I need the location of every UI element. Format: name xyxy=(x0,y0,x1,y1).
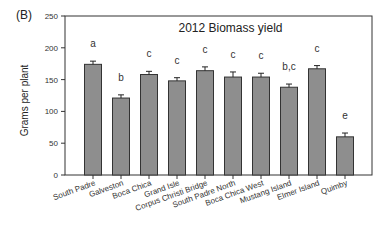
bar xyxy=(337,137,354,175)
bar xyxy=(197,71,214,175)
bar xyxy=(281,87,298,175)
y-tick-label: 150 xyxy=(45,76,59,85)
significance-letter: a xyxy=(90,38,96,49)
significance-letter: c xyxy=(315,43,320,54)
significance-letter: e xyxy=(342,110,348,121)
significance-letter: c xyxy=(147,48,152,59)
bar xyxy=(225,77,242,175)
significance-letter: c xyxy=(203,44,208,55)
significance-letter: b,c xyxy=(282,61,295,72)
bar xyxy=(309,69,326,175)
y-tick-label: 50 xyxy=(49,139,58,148)
bar xyxy=(85,64,102,175)
bar xyxy=(141,75,158,175)
y-tick-label: 0 xyxy=(54,171,59,180)
y-tick-label: 200 xyxy=(45,44,59,53)
significance-letter: c xyxy=(175,55,180,66)
bar-chart: 2012 Biomass yield050100150200250aSouth … xyxy=(0,0,387,230)
significance-letter: c xyxy=(259,50,264,61)
significance-letter: b xyxy=(118,72,124,83)
y-tick-label: 100 xyxy=(45,107,59,116)
significance-letter: c xyxy=(231,49,236,60)
chart-title: 2012 Biomass yield xyxy=(178,21,282,35)
x-tick-label: Quimby xyxy=(320,178,349,196)
y-tick-label: 250 xyxy=(45,12,59,21)
bar xyxy=(113,98,130,175)
bar xyxy=(169,81,186,175)
bar xyxy=(253,77,270,175)
